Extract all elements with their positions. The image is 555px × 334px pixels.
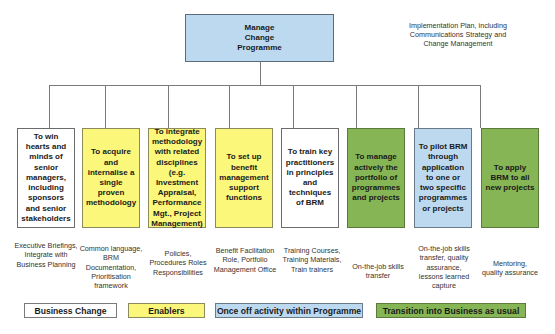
connector-horizontal <box>49 85 481 86</box>
objective-box-benefit-support: To set up benefit management support fun… <box>215 128 273 228</box>
objective-description: Benefit Facilitation Role, Portfolio Man… <box>212 246 278 274</box>
legend-label: Enablers <box>148 306 184 316</box>
connector-1 <box>49 85 50 128</box>
objective-description: Mentoring, quality assurance <box>482 259 538 278</box>
objective-label: To manage actively the portfolio of prog… <box>351 152 401 203</box>
objective-box-manage-portfolio: To manage actively the portfolio of prog… <box>347 128 405 228</box>
objective-box-train-practitioners: To train key practitioners in principles… <box>281 128 339 228</box>
objective-label: To set up benefit management support fun… <box>219 152 269 203</box>
objective-description: Executive Briefings, Integrate with Busi… <box>11 241 81 269</box>
root-box-manage-change-programme: Manage Change Programme <box>185 14 334 62</box>
connector-2 <box>105 85 106 128</box>
connector-7 <box>418 85 419 128</box>
objective-box-apply-brm: To apply BRM to all new projects <box>481 128 539 228</box>
objective-description: Common language, BRM Documentation, Prio… <box>78 244 144 291</box>
connector-5 <box>293 85 294 128</box>
objective-box-integrate-methodology: To integrate methodology with related di… <box>148 128 206 228</box>
objective-label: To win hearts and minds of senior manage… <box>21 132 71 224</box>
objective-description: On-the-job skills transfer <box>350 262 406 281</box>
objective-label: To pilot BRM through application to one … <box>418 142 468 214</box>
root-note: Implementation Plan, including Communica… <box>398 21 518 48</box>
connector-4 <box>229 85 230 128</box>
objective-description: Policies, Procedures Roles Responsibilit… <box>146 249 210 277</box>
objective-box-pilot-brm: To pilot BRM through application to one … <box>414 128 472 228</box>
objective-label: To train key practitioners in principles… <box>285 147 335 208</box>
objective-box-win-hearts-minds: To win hearts and minds of senior manage… <box>17 128 75 228</box>
objective-label: To apply BRM to all new projects <box>485 163 535 194</box>
objective-box-acquire-methodology: To acquire and internalise a single prov… <box>82 128 140 228</box>
legend-enablers: Enablers <box>128 303 205 318</box>
objective-label: To acquire and internalise a single prov… <box>86 147 136 208</box>
connector-3 <box>168 85 169 128</box>
legend-label: Transition into Business as usual <box>383 306 520 316</box>
legend-label: Business Change <box>34 306 106 316</box>
connector-root-down <box>260 62 261 85</box>
connector-6 <box>356 85 357 128</box>
legend-once-off-activity: Once off activity within Programme <box>215 303 363 318</box>
root-label: Manage Change Programme <box>230 23 290 54</box>
objective-label: To integrate methodology with related di… <box>151 127 203 229</box>
objective-description: On-the-job skills transfer, quality assu… <box>414 244 474 291</box>
objective-description: Training Courses, Training Materials, Tr… <box>282 246 342 274</box>
connector-8 <box>480 85 481 128</box>
legend-transition-bau: Transition into Business as usual <box>376 303 526 318</box>
legend-label: Once off activity within Programme <box>217 306 361 316</box>
legend-business-change: Business Change <box>24 303 117 318</box>
